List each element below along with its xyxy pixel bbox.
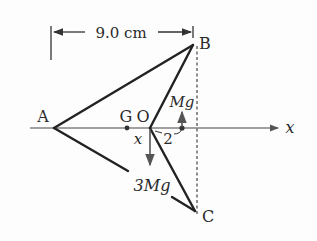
offset-label: 2 [163,130,173,148]
distance-label: x [134,130,143,148]
physics-diagram: 9.0 cm x A B C G O x 2 Mg 3Mg [0,0,317,241]
axis-label: x [285,118,294,137]
point-a-label: A [36,107,49,126]
point-c-label: C [202,207,214,226]
offset-leader [155,131,162,133]
dimension-label: 9.0 cm [95,24,146,42]
force-down-label: 3Mg [134,176,171,195]
point-g-label: G [120,107,133,126]
point-o-label: O [136,107,149,126]
force-up-label: Mg [169,93,195,111]
centroid-g-dot [125,126,130,131]
diagram-svg: 9.0 cm x A B C G O x 2 Mg 3Mg [0,0,317,241]
dimension-marker: 9.0 cm [51,24,193,60]
point-b-label: B [199,34,211,53]
